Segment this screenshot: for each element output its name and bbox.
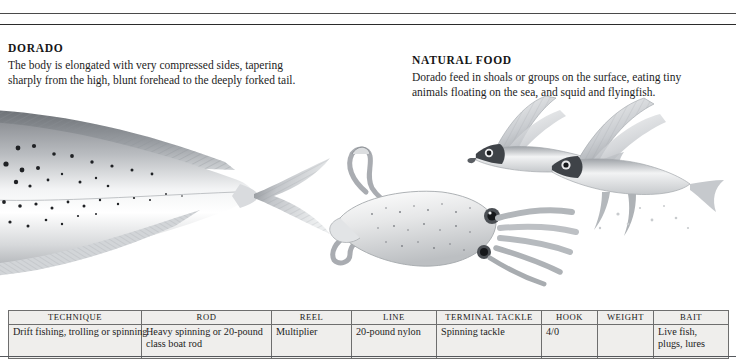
tackle-spec-table: TECHNIQUE ROD REEL LINE TERMINAL TACKLE … bbox=[8, 310, 729, 359]
table-header-weight: WEIGHT bbox=[598, 311, 654, 325]
top-rule-thin bbox=[0, 13, 736, 14]
dorado-description-block: DORADO The body is elongated with very c… bbox=[8, 42, 398, 87]
terminal-tackle-line-1: Spinning tackle bbox=[441, 326, 538, 338]
table-cell-technique: Drift fishing, trolling or spinning bbox=[9, 325, 142, 359]
hook-line-1: 4/0 bbox=[546, 326, 594, 338]
table-cell-terminal-tackle: Spinning tackle bbox=[437, 325, 542, 359]
table-header-row: TECHNIQUE ROD REEL LINE TERMINAL TACKLE … bbox=[9, 311, 729, 325]
dorado-fish-illustration bbox=[0, 110, 330, 276]
fish-illustration bbox=[0, 96, 736, 306]
rod-line-1: Heavy spinning or 20-pound bbox=[146, 326, 268, 338]
table-cell-rod: Heavy spinning or 20-pound class boat ro… bbox=[142, 325, 272, 359]
line-line-1: 20-pound nylon bbox=[356, 326, 433, 338]
table-cell-hook: 4/0 bbox=[542, 325, 598, 359]
natural-food-line-1: Dorado feed in shoals or groups on the s… bbox=[412, 70, 732, 85]
dorado-description-text: The body is elongated with very compress… bbox=[8, 58, 398, 87]
page-root: DORADO The body is elongated with very c… bbox=[0, 0, 736, 363]
top-rule-bold bbox=[0, 24, 736, 25]
table-header-bait: BAIT bbox=[654, 311, 729, 325]
bait-line-2: plugs, lures bbox=[658, 338, 725, 350]
natural-food-text: Dorado feed in shoals or groups on the s… bbox=[412, 70, 732, 99]
table-cell-bait: Live fish, plugs, lures bbox=[654, 325, 729, 359]
dorado-description-line-1: The body is elongated with very compress… bbox=[8, 58, 398, 73]
flyingfish-illustration-2 bbox=[552, 98, 724, 236]
table-cell-reel: Multiplier bbox=[272, 325, 352, 359]
natural-food-heading: NATURAL FOOD bbox=[412, 54, 732, 67]
table-cell-line: 20-pound nylon bbox=[352, 325, 437, 359]
reel-line-1: Multiplier bbox=[276, 326, 348, 338]
table-header-technique: TECHNIQUE bbox=[9, 311, 142, 325]
table-header-hook: HOOK bbox=[542, 311, 598, 325]
table-cell-weight bbox=[598, 325, 654, 359]
table-header-terminal-tackle: TERMINAL TACKLE bbox=[437, 311, 542, 325]
table-header-reel: REEL bbox=[272, 311, 352, 325]
table-row: Drift fishing, trolling or spinning Heav… bbox=[9, 325, 729, 359]
bottom-rule bbox=[0, 356, 736, 357]
dorado-heading: DORADO bbox=[8, 42, 398, 55]
bait-line-1: Live fish, bbox=[658, 326, 725, 338]
table-header-line: LINE bbox=[352, 311, 437, 325]
dorado-description-line-2: sharply from the high, blunt forehead to… bbox=[8, 73, 398, 88]
technique-line-1: Drift fishing, trolling or spinning bbox=[13, 326, 138, 338]
table-header-rod: ROD bbox=[142, 311, 272, 325]
natural-food-block: NATURAL FOOD Dorado feed in shoals or gr… bbox=[412, 54, 732, 99]
rod-line-2: class boat rod bbox=[146, 338, 268, 350]
